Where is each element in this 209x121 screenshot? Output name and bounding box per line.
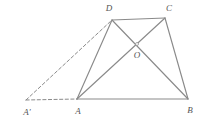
- vertex-label-b: B: [187, 106, 193, 115]
- segment-AD: [77, 20, 112, 99]
- geometry-canvas: [0, 0, 209, 121]
- solid-segments-group: [77, 18, 188, 99]
- segment-Aprime-D: [26, 20, 112, 100]
- vertex-label-d: D: [106, 4, 113, 13]
- vertex-label-c: C: [166, 4, 172, 13]
- dashed-segments-group: [26, 20, 112, 100]
- vertex-label-a: A: [75, 107, 81, 116]
- vertex-label-aprime: A': [23, 108, 30, 117]
- vertex-label-o: O: [134, 51, 141, 60]
- vertex-markers-group: [136, 43, 139, 46]
- point-O-marker: [136, 43, 139, 46]
- segment-Aprime-A: [26, 99, 77, 100]
- segment-DC: [112, 18, 165, 20]
- geometry-figure: A'ABCDO: [0, 0, 209, 121]
